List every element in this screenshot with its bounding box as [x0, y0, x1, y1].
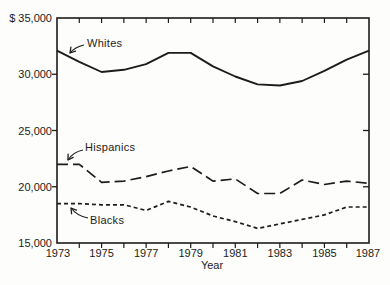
annotation-arrow-whites [70, 45, 84, 53]
x-axis-title: Year [201, 259, 224, 271]
x-tick-label: 1977 [134, 247, 158, 259]
income-line-chart-figure: $ 35,00030,00025,00020,00015,00019731975… [0, 0, 390, 285]
y-tick-label: 30,000 [18, 68, 52, 80]
series-label-whites: Whites [87, 37, 123, 49]
x-tick-label: 1985 [312, 247, 336, 259]
y-tick-label: 20,000 [18, 181, 52, 193]
series-line-whites [57, 51, 369, 86]
x-tick-label: 1973 [46, 247, 70, 259]
annotation-arrow-blacks [71, 208, 88, 218]
y-tick-label: $ 35,000 [9, 12, 52, 24]
series-label-hispanics: Hispanics [85, 141, 136, 153]
x-tick-label: 1979 [178, 247, 202, 259]
x-tick-label: 1983 [268, 247, 292, 259]
x-tick-label: 1981 [223, 247, 247, 259]
x-tick-label: 1975 [89, 247, 113, 259]
x-tick-label: 1987 [356, 247, 380, 259]
annotation-arrow-hispanics [68, 150, 83, 160]
y-tick-label: 25,000 [18, 125, 52, 137]
series-line-hispanics [57, 164, 369, 193]
series-label-blacks: Blacks [90, 214, 124, 226]
plot-border [57, 18, 369, 243]
line-chart: $ 35,00030,00025,00020,00015,00019731975… [0, 0, 390, 285]
